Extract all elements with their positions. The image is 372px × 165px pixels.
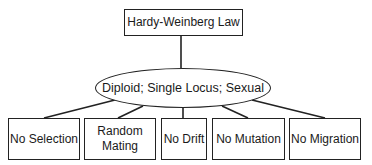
middle-node-label: Diploid; Single Locus; Sexual xyxy=(102,81,264,95)
middle-node: Diploid; Single Locus; Sexual xyxy=(95,68,271,108)
assumption-label: No Selection xyxy=(10,132,78,147)
assumption-no-selection: No Selection xyxy=(8,118,80,160)
assumption-no-mutation: No Mutation xyxy=(212,118,285,160)
assumption-label: No Drift xyxy=(164,132,205,147)
assumption-label: No Mutation xyxy=(216,132,281,147)
root-node: Hardy-Weinberg Law xyxy=(124,9,243,36)
assumption-no-migration: No Migration xyxy=(289,118,361,160)
assumption-no-drift: No Drift xyxy=(161,118,207,160)
assumption-label: No Migration xyxy=(291,132,359,147)
root-node-label: Hardy-Weinberg Law xyxy=(127,15,240,30)
assumption-random-mating: Random Mating xyxy=(84,118,156,160)
assumption-label: Random Mating xyxy=(97,124,143,154)
